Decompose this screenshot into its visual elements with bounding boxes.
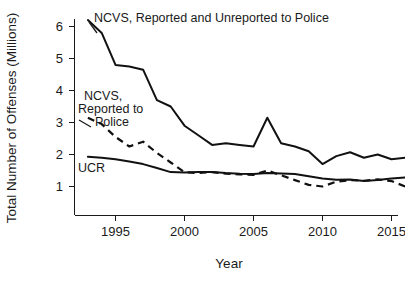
x-tick-label-2000: 2000	[170, 224, 199, 239]
y-axis-ticks	[69, 27, 75, 187]
y-axis-title: Total Number of Offenses (Millions)	[4, 13, 19, 224]
line-chart: 6 5 4 3 2 1 Total Number of Offenses (Mi…	[0, 0, 405, 284]
y-tick-label-5: 5	[56, 51, 63, 66]
x-tick-label-2005: 2005	[239, 224, 268, 239]
x-tick-label-2010: 2010	[308, 224, 337, 239]
x-axis-tick-labels: 1995 2000 2005 2010 2015	[101, 224, 405, 239]
chart-container: 6 5 4 3 2 1 Total Number of Offenses (Mi…	[0, 0, 405, 284]
x-tick-label-2015: 2015	[377, 224, 405, 239]
annotation-ncvs-total: NCVS, Reported and Unreported to Police	[89, 11, 329, 33]
y-tick-label-3: 3	[56, 115, 63, 130]
y-axis: 6 5 4 3 2 1 Total Number of Offenses (Mi…	[4, 13, 75, 224]
y-axis-tick-labels: 6 5 4 3 2 1	[56, 19, 63, 194]
ncvs-total-label: NCVS, Reported and Unreported to Police	[94, 11, 329, 25]
y-tick-label-2: 2	[56, 147, 63, 162]
ncvs-reported-label-line1: NCVS,	[84, 89, 122, 103]
series-ncvs-total	[88, 20, 405, 164]
y-tick-label-4: 4	[56, 83, 63, 98]
x-axis: 1995 2000 2005 2010 2015 Year	[75, 216, 405, 272]
x-axis-title: Year	[215, 256, 243, 271]
x-axis-ticks	[116, 216, 392, 222]
series-ncvs-reported	[88, 118, 405, 187]
y-tick-label-6: 6	[56, 19, 63, 34]
annotation-ncvs-reported: NCVS, Reported to Police	[78, 89, 143, 129]
ucr-label: UCR	[78, 161, 105, 175]
y-tick-label-1: 1	[56, 179, 63, 194]
ncvs-reported-leader-icon	[79, 120, 91, 127]
annotation-ucr: UCR	[78, 161, 105, 175]
ncvs-reported-label-line2: Reported to	[78, 102, 143, 116]
ncvs-reported-label-line3: Police	[95, 115, 129, 129]
series-ucr	[88, 157, 405, 181]
x-tick-label-1995: 1995	[101, 224, 130, 239]
